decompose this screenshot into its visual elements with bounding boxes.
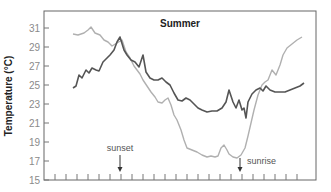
annotations: sunsetsunrise [107,143,276,172]
y-tick-label: 25 [29,80,41,91]
y-tick-label: 21 [29,118,41,129]
y-tick-label: 15 [29,175,41,186]
light-series-line [73,27,302,158]
sunset-arrowhead-icon [118,167,123,172]
y-tick-label: 31 [29,23,41,34]
y-tick-label: 17 [29,156,41,167]
plot-frame [44,11,316,180]
y-tick-label: 29 [29,42,41,53]
y-axis-label: Temperature (°C) [3,56,14,137]
sunset-label: sunset [107,143,134,153]
y-axis: 151719212325272931 [29,23,49,186]
chart-canvas: 151719212325272931 Temperature (°C) Summ… [0,0,331,192]
series-group [73,27,304,158]
y-tick-label: 27 [29,61,41,72]
x-axis [55,174,297,180]
chart-title: Summer [160,18,200,29]
sunrise-label: sunrise [247,156,276,166]
y-tick-label: 19 [29,137,41,148]
temperature-chart: 151719212325272931 Temperature (°C) Summ… [0,0,331,192]
y-tick-label: 23 [29,99,41,110]
sunrise-arrowhead-icon [238,167,243,172]
